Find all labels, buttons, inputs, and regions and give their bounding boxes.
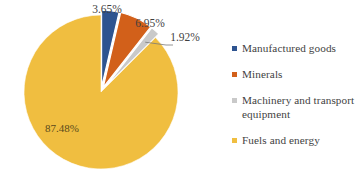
legend-swatch-minerals (232, 72, 237, 77)
legend-label-minerals: Minerals (242, 68, 283, 81)
pie-slices (24, 10, 178, 169)
legend-item-machinery-and-transport-equipment[interactable]: Machinery and transport equipment (232, 94, 362, 120)
pie-svg: 3.65%6.95%1.92%87.48% (0, 0, 215, 188)
pie-value-label: 87.48% (45, 122, 79, 134)
legend-item-minerals[interactable]: Minerals (232, 68, 362, 81)
pie-value-label: 3.65% (92, 3, 122, 15)
legend-label-fuels-and-energy: Fuels and energy (242, 134, 320, 147)
legend-swatch-manufactured-goods (232, 46, 237, 51)
pie-plot-area: 3.65%6.95%1.92%87.48% (0, 0, 215, 188)
pie-slice[interactable] (24, 15, 178, 169)
legend-item-manufactured-goods[interactable]: Manufactured goods (232, 42, 362, 55)
chart-legend: Manufactured goods Minerals Machinery an… (232, 42, 362, 147)
legend-swatch-fuels-and-energy (232, 138, 237, 143)
pie-chart: 3.65%6.95%1.92%87.48% Manufactured goods… (0, 0, 362, 188)
pie-value-label: 6.95% (135, 17, 165, 29)
pie-value-label: 1.92% (170, 31, 200, 43)
legend-label-manufactured-goods: Manufactured goods (242, 42, 336, 55)
legend-label-machinery-and-transport-equipment: Machinery and transport equipment (242, 94, 362, 120)
legend-swatch-machinery-and-transport-equipment (232, 98, 237, 103)
legend-item-fuels-and-energy[interactable]: Fuels and energy (232, 134, 362, 147)
